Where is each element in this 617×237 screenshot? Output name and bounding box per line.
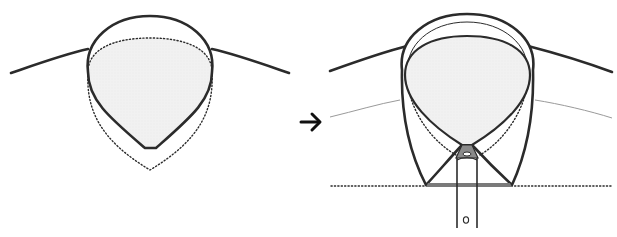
collar-diagram: Shirt collar fitting illustration: neck … bbox=[0, 0, 617, 237]
left-shoulder-line bbox=[11, 49, 88, 73]
collar-bottom-shade bbox=[426, 183, 512, 187]
collar-button-icon bbox=[463, 152, 471, 156]
neck-opening-fill bbox=[88, 38, 212, 148]
chest-guide-line bbox=[330, 100, 400, 117]
arrow-icon bbox=[301, 114, 320, 130]
panel-after bbox=[330, 14, 612, 228]
right-panel-right-shoulder bbox=[528, 46, 612, 72]
chest-guide-line-right bbox=[535, 100, 612, 118]
diagram-svg bbox=[0, 0, 617, 237]
panel-before bbox=[11, 16, 289, 170]
placket-button-icon bbox=[463, 217, 468, 223]
right-panel-left-shoulder bbox=[330, 46, 407, 71]
right-shoulder-line bbox=[212, 49, 289, 73]
